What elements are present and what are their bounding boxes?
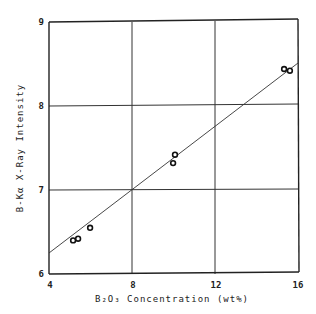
ytick-7: 7	[39, 185, 44, 195]
plot-frame	[49, 19, 299, 274]
gridlines	[49, 21, 298, 274]
fit-line	[49, 63, 298, 253]
xtick-4: 4	[47, 280, 53, 290]
xtick-12: 12	[211, 280, 222, 290]
data-point	[282, 67, 287, 72]
ytick-9: 9	[39, 17, 44, 27]
data-point	[71, 238, 76, 243]
data-point	[288, 68, 293, 73]
y-axis-label: B-Kα X-Ray Intensity	[15, 84, 25, 212]
ytick-8: 8	[39, 101, 44, 111]
ytick-6: 6	[39, 269, 44, 279]
xtick-16: 16	[293, 280, 304, 290]
data-point	[173, 152, 178, 157]
xtick-8: 8	[130, 280, 135, 290]
data-point	[88, 225, 93, 230]
chart: 9 8 7 6 4 8 12 16 B₂O₃ Concentration (wt…	[0, 0, 316, 314]
data-point	[171, 161, 176, 166]
x-axis-label: B₂O₃ Concentration (wt%)	[95, 294, 249, 304]
data-point	[76, 236, 81, 241]
